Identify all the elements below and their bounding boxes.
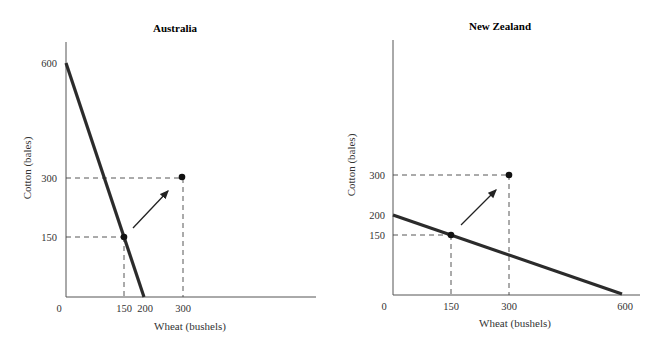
nz-xtick-600: 600 [617, 301, 633, 312]
nz-ytick-300: 300 [369, 170, 385, 181]
australia-x-label: Wheat (bushels) [154, 320, 226, 333]
nz-xtick-300: 300 [501, 301, 517, 312]
chart-canvas: Australia 600 300 150 0 150 200 300 Whea… [0, 0, 654, 347]
nz-y-label: Cotton (bales) [345, 133, 358, 196]
australia-ytick-150: 150 [41, 232, 57, 243]
australia-xtick-300: 300 [175, 303, 191, 314]
nz-ytick-150: 150 [369, 230, 385, 241]
australia-ppf-line [66, 63, 144, 297]
australia-autarky-point [121, 234, 128, 241]
nz-trade-point [506, 172, 513, 179]
australia-ytick-300: 300 [41, 173, 57, 184]
australia-trade-point [179, 174, 186, 181]
australia-xtick-150: 150 [116, 303, 132, 314]
nz-title: New Zealand [469, 20, 531, 32]
australia-ytick-600: 600 [41, 58, 57, 69]
nz-x-label: Wheat (bushels) [479, 317, 551, 330]
nz-ytick-200: 200 [369, 210, 385, 221]
nz-origin: 0 [381, 301, 386, 312]
nz-autarky-point [448, 232, 455, 239]
australia-origin: 0 [56, 303, 61, 314]
new-zealand-chart: New Zealand 300 200 150 0 150 300 600 Wh… [345, 20, 640, 330]
australia-chart: Australia 600 300 150 0 150 200 300 Whea… [21, 22, 316, 333]
nz-arrow-icon [461, 190, 496, 225]
australia-arrow-icon [133, 191, 168, 228]
australia-title: Australia [153, 22, 198, 34]
australia-xtick-200: 200 [137, 303, 153, 314]
nz-xtick-150: 150 [443, 301, 459, 312]
australia-y-label: Cotton (bales) [21, 136, 34, 199]
nz-ppf-line [393, 215, 622, 294]
